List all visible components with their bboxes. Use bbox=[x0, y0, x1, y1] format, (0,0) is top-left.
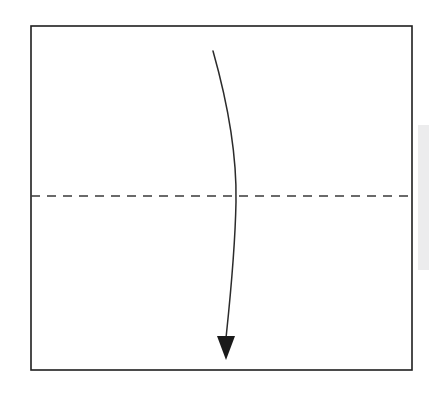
figure-root: Curved downward arrow crossing a dashed … bbox=[0, 0, 429, 399]
diagram-canvas bbox=[0, 0, 429, 399]
right-edge-gray-band bbox=[418, 125, 429, 270]
page-background bbox=[0, 0, 429, 399]
